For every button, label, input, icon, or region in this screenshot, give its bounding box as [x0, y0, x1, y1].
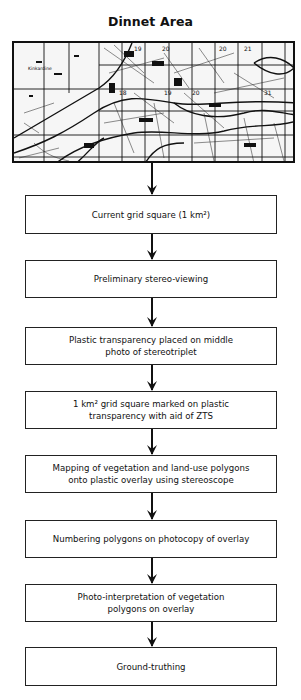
flow-arrow-5 [146, 429, 158, 455]
flow-arrow-4 [146, 365, 158, 391]
step-preliminary-stereo-viewing: Preliminary stereo-viewing [25, 260, 277, 298]
map-graphic: Kinkardine 19202021 18192031 [14, 43, 295, 163]
step-mapping-polygons: Mapping of vegetation and land-use polyg… [25, 455, 277, 493]
flow-arrow-1 [146, 163, 158, 195]
flow-arrow-2 [146, 234, 158, 260]
step-text-line1: Photo-interpretation of vegetation [78, 591, 225, 603]
step-text: Current grid square (1 km²) [92, 209, 210, 221]
step-text-line2: transparency with aid of ZTS [89, 410, 213, 422]
svg-text:Kinkardine: Kinkardine [28, 66, 52, 71]
arrowhead-icon [146, 510, 158, 520]
step-plastic-transparency: Plastic transparency placed on middle ph… [25, 327, 277, 365]
step-numbering-polygons: Numbering polygons on photocopy of overl… [25, 520, 277, 558]
step-photo-interpretation: Photo-interpretation of vegetation polyg… [25, 584, 277, 622]
step-text-line1: Mapping of vegetation and land-use polyg… [53, 462, 250, 474]
arrowhead-icon [146, 381, 158, 391]
step-text: Ground-truthing [116, 661, 185, 673]
svg-text:20: 20 [162, 45, 170, 52]
step-text-line2: photo of stereotriplet [105, 346, 196, 358]
step-grid-square-marked: 1 km² grid square marked on plastic tran… [25, 391, 277, 429]
arrowhead-icon [146, 317, 158, 327]
step-text-line1: Plastic transparency placed on middle [69, 334, 233, 346]
dinnet-area-map: Kinkardine 19202021 18192031 [12, 41, 295, 163]
step-text: Numbering polygons on photocopy of overl… [53, 533, 250, 545]
svg-text:20: 20 [219, 45, 227, 52]
svg-text:31: 31 [264, 89, 272, 96]
svg-text:18: 18 [119, 89, 127, 96]
arrowhead-icon [146, 185, 158, 195]
flow-arrow-7 [146, 558, 158, 584]
step-text-line2: polygons on overlay [108, 603, 195, 615]
arrowhead-icon [146, 574, 158, 584]
diagram-title: Dinnet Area [0, 14, 301, 29]
step-current-grid-square: Current grid square (1 km²) [25, 195, 277, 234]
arrowhead-icon [146, 250, 158, 260]
svg-text:19: 19 [164, 89, 172, 96]
step-text-line1: 1 km² grid square marked on plastic [73, 398, 229, 410]
svg-text:19: 19 [134, 45, 142, 52]
step-text: Preliminary stereo-viewing [94, 273, 208, 285]
svg-text:20: 20 [192, 89, 200, 96]
step-text-line2: onto plastic overlay using stereoscope [68, 474, 234, 486]
flow-arrow-8 [146, 622, 158, 647]
flow-arrow-3 [146, 298, 158, 327]
step-ground-truthing: Ground-truthing [25, 647, 277, 686]
arrowhead-icon [146, 637, 158, 647]
flow-arrow-6 [146, 493, 158, 520]
svg-text:21: 21 [244, 45, 252, 52]
arrowhead-icon [146, 445, 158, 455]
